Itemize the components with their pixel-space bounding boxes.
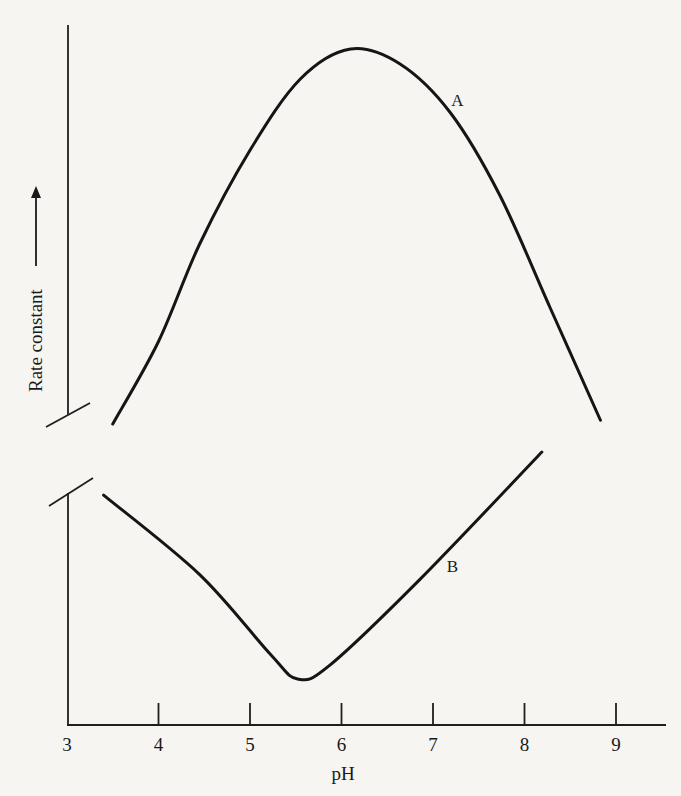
y-axis-title: Rate constant	[25, 288, 46, 392]
x-ticks	[159, 703, 617, 725]
y-axis-arrow-icon	[31, 186, 41, 198]
series-line-a	[113, 48, 601, 424]
x-tick-label: 5	[245, 734, 255, 755]
x-tick-labels: 3456789	[62, 734, 621, 755]
series-line-b	[104, 452, 542, 680]
y-axis-title-group: Rate constant	[25, 186, 46, 392]
y-axis-break-mark-lower	[49, 478, 93, 506]
x-tick-label: 6	[337, 734, 347, 755]
series-label-b: B	[447, 557, 458, 576]
x-tick-label: 9	[611, 734, 621, 755]
x-tick-label: 3	[62, 734, 72, 755]
series-label-a: A	[451, 91, 464, 110]
x-tick-label: 8	[520, 734, 530, 755]
series-group: AB	[104, 48, 601, 680]
x-axis-title: pH	[331, 763, 355, 784]
x-tick-label: 7	[428, 734, 438, 755]
x-tick-label: 4	[154, 734, 164, 755]
chart: 3456789 pH Rate constant AB	[0, 0, 681, 796]
